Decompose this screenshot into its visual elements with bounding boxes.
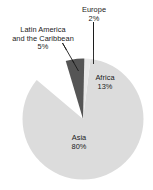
- slice-label-latin-america-value: 5%: [2, 43, 84, 52]
- pie-chart: Europe 2% Latin America and the Caribbea…: [0, 0, 153, 190]
- slice-label-asia: Asia 80%: [56, 134, 102, 151]
- slice-label-africa: Africa 13%: [84, 74, 126, 91]
- slice-label-europe-value: 2%: [66, 15, 122, 24]
- slice-label-europe: Europe 2%: [66, 6, 122, 23]
- slice-label-africa-value: 13%: [84, 83, 126, 92]
- slice-label-asia-value: 80%: [56, 143, 102, 152]
- slice-label-latin-america: Latin America and the Caribbean 5%: [2, 26, 84, 52]
